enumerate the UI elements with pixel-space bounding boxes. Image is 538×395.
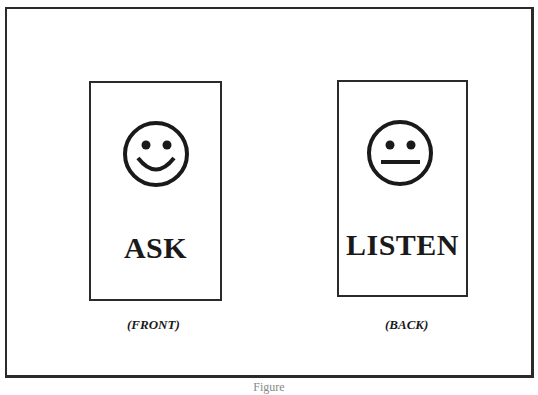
card-front: ASK: [89, 81, 222, 301]
figure-caption: Figure: [0, 380, 538, 395]
card-word-listen: LISTEN: [339, 228, 466, 262]
label-front: (FRONT): [127, 317, 180, 333]
label-back: (BACK): [385, 317, 428, 333]
smiley-face-icon: [115, 113, 197, 195]
card-word-ask: ASK: [91, 231, 220, 265]
neutral-face-icon: [359, 112, 441, 194]
card-back: LISTEN: [337, 80, 468, 297]
